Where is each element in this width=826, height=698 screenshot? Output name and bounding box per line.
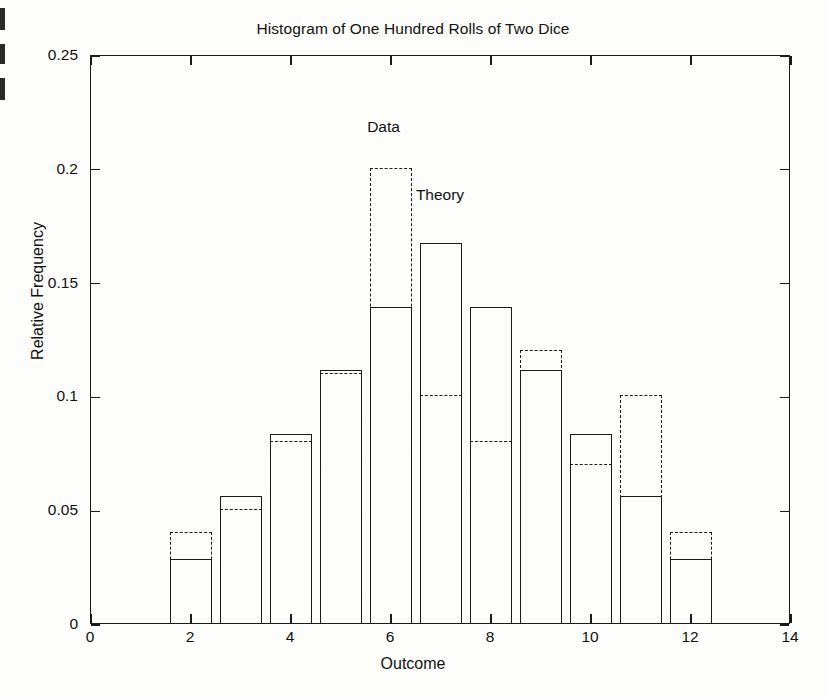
y-tick-label: 0.2	[0, 160, 78, 178]
theory-outline-bar	[170, 532, 212, 623]
theory-outline-bar	[420, 395, 462, 623]
x-tick-label: 6	[386, 628, 395, 646]
theory-outline-bar	[520, 350, 562, 623]
scan-edge-artifact-3	[0, 78, 5, 100]
y-tick-mark	[91, 55, 100, 56]
x-tick-label: 4	[286, 628, 295, 646]
plot-area	[90, 55, 790, 624]
theory-outline-bar	[470, 441, 512, 623]
y-tick-mark	[91, 283, 100, 284]
x-tick-mark	[290, 56, 291, 65]
y-tick-mark	[780, 169, 789, 170]
x-tick-mark	[390, 56, 391, 65]
theory-outline-bar	[620, 395, 662, 623]
x-tick-mark	[490, 56, 491, 65]
x-tick-mark	[790, 614, 791, 623]
theory-outline-bar	[320, 373, 362, 623]
x-tick-label: 8	[486, 628, 495, 646]
x-tick-label: 10	[581, 628, 598, 646]
y-tick-label: 0.25	[0, 46, 78, 64]
x-tick-label: 0	[86, 628, 95, 646]
y-tick-mark	[91, 397, 100, 398]
y-tick-mark	[780, 55, 789, 56]
x-axis-title: Outcome	[0, 655, 826, 673]
theory-outline-bar	[220, 509, 262, 623]
chart-title: Histogram of One Hundred Rolls of Two Di…	[0, 20, 826, 38]
x-tick-mark	[90, 614, 91, 623]
x-tick-label: 2	[186, 628, 195, 646]
series-annotation-data: Data	[367, 118, 400, 136]
theory-outline-bar	[670, 532, 712, 623]
x-tick-mark	[790, 56, 791, 65]
figure-canvas: Histogram of One Hundred Rolls of Two Di…	[0, 0, 826, 698]
y-tick-label: 0	[0, 615, 78, 633]
y-tick-mark	[91, 511, 100, 512]
x-tick-mark	[690, 56, 691, 65]
x-tick-mark	[190, 56, 191, 65]
x-tick-mark	[90, 56, 91, 65]
y-tick-mark	[780, 511, 789, 512]
theory-outline-bar	[570, 464, 612, 623]
series-annotation-theory: Theory	[416, 186, 464, 204]
theory-outline-bar	[270, 441, 312, 623]
x-tick-mark	[590, 56, 591, 65]
theory-outline-bar	[370, 168, 412, 623]
x-tick-label: 12	[681, 628, 698, 646]
y-tick-label: 0.05	[0, 501, 78, 519]
y-tick-mark	[780, 397, 789, 398]
y-tick-mark	[780, 624, 789, 625]
y-tick-mark	[780, 283, 789, 284]
y-tick-label: 0.15	[0, 274, 78, 292]
y-tick-label: 0.1	[0, 387, 78, 405]
y-tick-mark	[91, 169, 100, 170]
y-tick-mark	[91, 624, 100, 625]
x-tick-label: 14	[781, 628, 798, 646]
